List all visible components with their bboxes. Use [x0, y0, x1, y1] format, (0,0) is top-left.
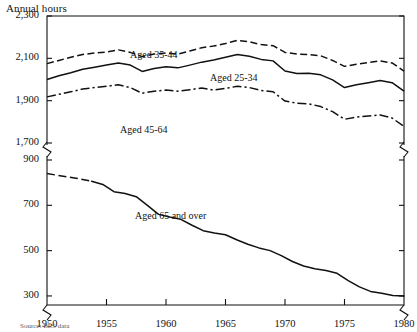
series-label-1: Aged 35-44	[130, 49, 178, 60]
y-axis-tick-label: 2,300	[0, 9, 39, 20]
y-axis-tick-label: 500	[0, 244, 39, 255]
chart-figure: Annual hours 1,7001,9002,1002,3003005007…	[0, 0, 417, 332]
y-axis-tick-label: 1,700	[0, 136, 39, 147]
y-axis-tick-label: 900	[0, 153, 39, 164]
x-axis-tick-label: 1980	[379, 318, 417, 329]
x-axis-tick-label: 1965	[201, 318, 251, 329]
series-line-4	[47, 174, 404, 296]
series-line-3	[47, 85, 404, 127]
series-label-4: Aged 65 and over	[135, 210, 206, 221]
y-axis-tick-label: 300	[0, 289, 39, 300]
y-axis-tick-label: 2,100	[0, 51, 39, 62]
y-axis-tick-label: 700	[0, 198, 39, 209]
chart-plot-area	[0, 0, 417, 332]
x-axis-tick-label: 1970	[260, 318, 310, 329]
x-axis-tick-label: 1975	[320, 318, 370, 329]
x-axis-tick-label: 1960	[141, 318, 191, 329]
series-label-2: Aged 25-34	[210, 72, 258, 83]
series-label-3: Aged 45-64	[120, 124, 168, 135]
y-axis-tick-label: 1,900	[0, 94, 39, 105]
x-axis-tick-label: 1955	[82, 318, 132, 329]
source-note: Source: BLS data	[20, 322, 69, 330]
